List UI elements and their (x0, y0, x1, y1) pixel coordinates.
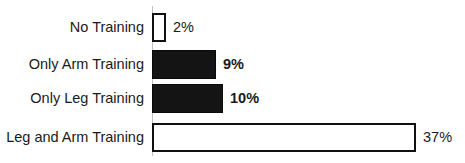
bar (152, 13, 166, 42)
category-label: No Training (0, 13, 144, 42)
bar (152, 84, 223, 113)
category-label: Leg and Arm Training (0, 123, 144, 152)
horizontal-bar-chart: No Training2%Only Arm Training9%Only Leg… (0, 0, 465, 163)
category-label: Only Arm Training (0, 50, 144, 79)
value-label: 9% (223, 50, 244, 79)
bar (152, 50, 216, 79)
category-label: Only Leg Training (0, 84, 144, 113)
bar (152, 123, 416, 152)
value-label: 37% (423, 123, 452, 152)
value-label: 2% (173, 13, 194, 42)
value-label: 10% (230, 84, 259, 113)
